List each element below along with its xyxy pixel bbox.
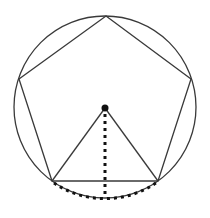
- pentagon-diagram: [0, 0, 210, 218]
- diagram-canvas: Regular pentagon inscribed in a circle: [0, 0, 210, 218]
- radius-left: [52, 108, 105, 181]
- center-point: [102, 105, 109, 112]
- radius-right: [105, 108, 158, 181]
